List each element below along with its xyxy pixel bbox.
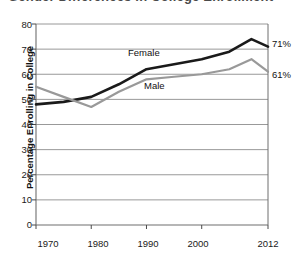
y-tick-label: 0 (8, 219, 32, 230)
y-tick-label: 70 (8, 44, 32, 55)
y-tick-label: 50 (8, 94, 32, 105)
y-tick-label: 10 (8, 194, 32, 205)
x-tick-label: 2000 (178, 238, 218, 249)
y-tick-label: 20 (8, 169, 32, 180)
x-tick-label: 1970 (28, 238, 68, 249)
y-tick-label: 80 (8, 19, 32, 30)
end-label-male: 61% (272, 69, 291, 80)
y-tick-label: 40 (8, 119, 32, 130)
x-tick-label: 1980 (78, 238, 118, 249)
end-label-female: 71% (272, 38, 291, 49)
series-label-female: Female (128, 47, 160, 58)
chart-plot-area (0, 0, 307, 264)
y-tick-label: 30 (8, 144, 32, 155)
x-tick-label: 2012 (248, 238, 288, 249)
chart-figure: Percentage Enrolling in College 80 70 60… (0, 0, 307, 264)
x-tick-label: 1990 (128, 238, 168, 249)
series-label-male: Male (144, 80, 165, 91)
y-tick-label: 60 (8, 69, 32, 80)
